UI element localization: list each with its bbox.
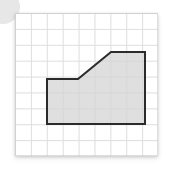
figure-canvas <box>0 0 176 171</box>
shaded-polygon <box>47 52 145 124</box>
polygon-layer <box>0 0 176 171</box>
